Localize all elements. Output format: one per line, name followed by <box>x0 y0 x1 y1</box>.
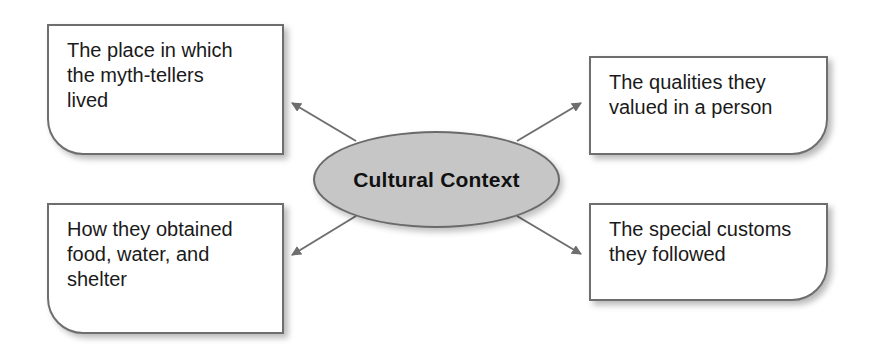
arrow-to-bottom-right <box>517 216 581 254</box>
central-concept-label: Cultural Context <box>353 168 520 192</box>
node-text-line: The place in which <box>67 38 268 63</box>
node-bottom-left: How they obtained food, water, and shelt… <box>47 203 284 334</box>
arrow-to-top-right <box>517 103 581 141</box>
node-text-line: valued in a person <box>609 95 812 120</box>
arrow-to-top-left <box>292 103 356 141</box>
node-bottom-right: The special customs they followed <box>589 203 828 301</box>
node-top-right: The qualities they valued in a person <box>589 56 828 155</box>
node-text-line: The qualities they <box>609 70 812 95</box>
node-text-line: How they obtained <box>67 217 268 242</box>
node-text-line: The special customs <box>609 217 812 242</box>
node-text-line: the myth-tellers <box>67 63 268 88</box>
node-text-line: lived <box>67 88 268 113</box>
node-text-line: they followed <box>609 242 812 267</box>
arrow-to-bottom-left <box>292 216 356 255</box>
node-top-left: The place in which the myth-tellers live… <box>47 24 284 155</box>
node-text-line: food, water, and <box>67 242 268 267</box>
node-text-line: shelter <box>67 267 268 292</box>
central-concept-ellipse: Cultural Context <box>313 131 560 228</box>
